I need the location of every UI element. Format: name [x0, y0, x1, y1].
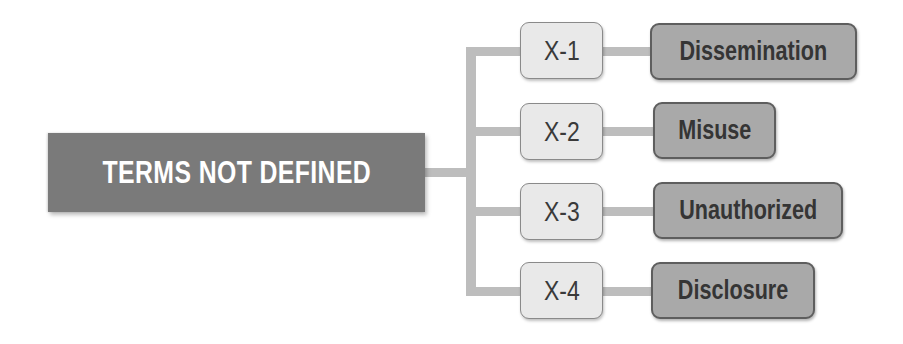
connector-x3-to-term — [602, 207, 655, 216]
code-node-x3: X-3 — [520, 183, 603, 240]
connector-x4-to-term — [602, 287, 653, 296]
root-node-terms-not-defined: TERMS NOT DEFINED — [48, 133, 425, 212]
code-node-label: X-4 — [544, 275, 580, 307]
connector-trunk-to-x4 — [466, 287, 522, 296]
code-node-label: X-2 — [544, 116, 580, 148]
connector-x1-to-term — [602, 47, 652, 56]
term-node-disclosure: Disclosure — [651, 262, 815, 319]
term-node-misuse: Misuse — [653, 102, 776, 159]
term-node-label: Disclosure — [678, 275, 788, 306]
code-node-x1: X-1 — [520, 22, 603, 79]
term-node-dissemination: Dissemination — [650, 23, 857, 80]
term-node-label: Unauthorized — [679, 195, 817, 226]
connector-x2-to-term — [602, 127, 655, 136]
root-node-label: TERMS NOT DEFINED — [102, 155, 371, 191]
connector-root-to-trunk — [425, 168, 472, 177]
connector-trunk-to-x3 — [466, 207, 522, 216]
code-node-label: X-3 — [544, 196, 580, 228]
connector-trunk-to-x2 — [466, 127, 522, 136]
term-node-label: Dissemination — [680, 36, 828, 67]
term-node-label: Misuse — [678, 115, 751, 146]
connector-trunk — [466, 47, 476, 296]
code-node-label: X-1 — [544, 35, 580, 67]
code-node-x2: X-2 — [520, 103, 603, 160]
code-node-x4: X-4 — [520, 262, 603, 319]
term-node-unauthorized: Unauthorized — [653, 182, 843, 239]
connector-trunk-to-x1 — [466, 47, 522, 56]
